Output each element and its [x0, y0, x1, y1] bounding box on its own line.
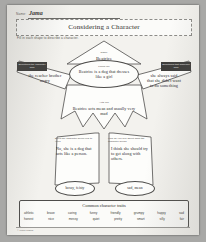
head-answer[interactable]: Beatrice is a dog that dresses like a gi… — [77, 69, 131, 79]
worksheet-page: Name: Jama Considering a Character Fill … — [7, 5, 199, 235]
left-arm-tag: Something the character said — [18, 63, 46, 69]
word-bank-word: fair — [180, 217, 184, 221]
left-leg-tag: Does the character seem real to you? — [55, 137, 97, 143]
word-bank-row-2: honest nice messy quiet pretty smart sil… — [24, 217, 184, 221]
word-bank-word: smart — [137, 217, 145, 221]
right-leg-shape[interactable]: How do you feel about what the character… — [103, 133, 157, 185]
left-leg-shape[interactable]: Does the character seem real to you? No,… — [51, 133, 103, 185]
word-bank-word: grumpy — [134, 211, 144, 215]
right-leg-tag: How do you feel about what the character… — [108, 137, 150, 143]
word-bank-word: messy — [69, 217, 78, 221]
word-bank-title: Common character traits — [20, 203, 188, 208]
right-arm-tag: Something that someone said — [162, 63, 190, 69]
word-bank-word: funny — [90, 211, 98, 215]
left-leg-answer[interactable]: No, she is a dog that acts like a person… — [56, 146, 96, 156]
torso-shape[interactable]: Acts like Beatrice acts mean and usually… — [53, 85, 155, 133]
right-leg-answer[interactable]: I think she should try to get along with… — [111, 146, 151, 161]
word-bank-word: quiet — [93, 217, 100, 221]
word-bank-word: friendly — [111, 211, 121, 215]
scan-background: Name: Jama Considering a Character Fill … — [0, 0, 206, 242]
torso-answer[interactable]: Beatrice acts mean and usually very mad — [71, 106, 137, 116]
word-bank-row-1: athletic brave caring funny friendly gru… — [24, 211, 184, 215]
left-foot-answer[interactable]: bossy, feisty — [55, 186, 95, 190]
hat-tag: Name — [90, 51, 118, 54]
word-bank-word: silly — [160, 217, 165, 221]
word-bank-word: nice — [48, 217, 54, 221]
word-bank-word: honest — [24, 217, 33, 221]
word-bank-word: brave — [47, 211, 55, 215]
head-tag: Looks like — [89, 65, 119, 68]
torso-tag: Acts like — [89, 101, 119, 104]
footer-credit: © Learn Makes — [17, 229, 33, 232]
head-shape[interactable]: Looks like Beatrice is a dog that dresse… — [69, 60, 139, 88]
word-bank-word: happy — [157, 211, 165, 215]
left-arm-answer[interactable]: the reacher brother angry — [28, 73, 62, 83]
word-bank-word: sad — [179, 211, 184, 215]
right-foot-answer[interactable]: sad, mean — [115, 186, 155, 190]
word-bank-word: pretty — [114, 217, 122, 221]
right-foot-shape[interactable]: sad, mean — [115, 181, 155, 196]
word-bank: Common character traits athletic brave c… — [19, 200, 189, 228]
footer-rule — [16, 227, 190, 228]
word-bank-word: caring — [68, 211, 76, 215]
left-foot-shape[interactable]: bossy, feisty — [55, 181, 95, 196]
word-bank-word: athletic — [24, 211, 34, 215]
